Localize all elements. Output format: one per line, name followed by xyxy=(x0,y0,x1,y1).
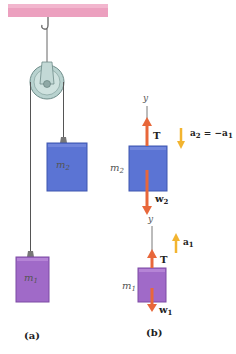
weight-label-w1: w1 xyxy=(159,304,172,317)
label-mass-m2: m2 xyxy=(56,159,70,172)
atwood-machine-diagram xyxy=(0,0,236,354)
tension-label-m2: T xyxy=(153,130,160,141)
tension-label-m1: T xyxy=(160,254,167,265)
acceleration-label-a2: a2 = −a1 xyxy=(190,128,233,140)
acceleration-label-a1: a1 xyxy=(183,237,194,249)
fbd-label-m2: m2 xyxy=(110,162,124,175)
y-axis-label-m1: y xyxy=(148,214,153,224)
pulley-icon xyxy=(30,62,64,99)
label-mass-m1: m1 xyxy=(24,272,38,285)
acceleration-arrow-a1 xyxy=(172,233,180,253)
weight-label-w2: w2 xyxy=(155,193,168,206)
acceleration-arrow-a2 xyxy=(177,128,185,149)
fbd-label-m1: m1 xyxy=(122,280,136,293)
tension-arrow-m1 xyxy=(147,249,157,268)
panel-a-label: (a) xyxy=(24,330,40,341)
tension-arrow-m2 xyxy=(142,117,152,146)
y-axis-label-m2: y xyxy=(143,93,148,103)
panel-b-label: (b) xyxy=(146,327,162,338)
hook-icon xyxy=(42,17,48,29)
panel-a xyxy=(8,4,108,302)
